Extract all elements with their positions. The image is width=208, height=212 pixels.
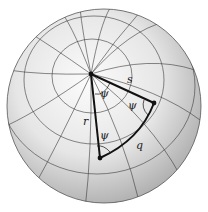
- vertex-bottom: [98, 156, 103, 161]
- pole-point: [89, 72, 94, 77]
- vertex-right: [152, 101, 157, 106]
- label-s: s: [127, 73, 133, 86]
- label-psi-right: ψ: [128, 99, 137, 112]
- label-r: r: [83, 115, 89, 128]
- label-psi-top: ψ: [100, 87, 109, 100]
- label-q: q: [136, 139, 143, 152]
- label-psi-bottom: ψ: [100, 129, 109, 142]
- sphere-diagram: s ψ ψ r ψ q: [0, 0, 208, 212]
